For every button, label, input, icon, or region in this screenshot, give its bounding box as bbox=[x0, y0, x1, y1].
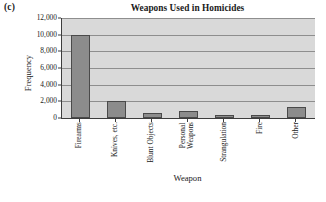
x-category-label: Strangulation bbox=[220, 122, 228, 162]
bar-series bbox=[62, 18, 315, 118]
x-category-label: Fire bbox=[256, 122, 264, 134]
x-category-slot: Fire bbox=[242, 122, 278, 172]
bar-slot bbox=[134, 18, 170, 118]
x-category-slot: Other bbox=[278, 122, 314, 172]
y-tick-label: 2,000 bbox=[40, 98, 57, 105]
x-category-slot: Firearms bbox=[61, 122, 97, 172]
plot-area bbox=[61, 18, 315, 119]
x-category-label: Firearms bbox=[75, 122, 83, 148]
bar-slot bbox=[207, 18, 243, 118]
bar-slot bbox=[279, 18, 315, 118]
y-tick-label: 4,000 bbox=[40, 81, 57, 88]
bar[interactable] bbox=[179, 111, 198, 119]
bar[interactable] bbox=[143, 113, 162, 118]
x-category-slot: Blunt Objects bbox=[133, 122, 169, 172]
y-tick-label: 6,000 bbox=[40, 64, 57, 71]
x-axis-category-labels: FirearmsKnives, etc.Blunt ObjectsPersona… bbox=[61, 122, 314, 172]
chart-title: Weapons Used in Homicides bbox=[60, 3, 315, 13]
bar-slot bbox=[62, 18, 98, 118]
bar[interactable] bbox=[107, 101, 126, 118]
y-tick-label: 0 bbox=[53, 114, 57, 121]
x-category-label: Blunt Objects bbox=[147, 122, 155, 163]
x-category-label: Knives, etc. bbox=[111, 122, 119, 157]
x-category-slot: Knives, etc. bbox=[97, 122, 133, 172]
bar[interactable] bbox=[71, 35, 90, 118]
bar[interactable] bbox=[251, 115, 270, 118]
y-tick-label: 10,000 bbox=[37, 31, 57, 38]
figure: (c) Weapons Used in Homicides Frequency … bbox=[0, 0, 326, 202]
x-axis-title: Weapon bbox=[61, 174, 314, 183]
panel-label: (c) bbox=[4, 3, 15, 13]
x-category-label: Personal Weapons bbox=[180, 122, 196, 149]
y-axis-title: Frequency bbox=[24, 55, 33, 91]
x-category-slot: Strangulation bbox=[206, 122, 242, 172]
x-category-label: Other bbox=[292, 122, 300, 139]
bar[interactable] bbox=[287, 107, 306, 118]
y-axis-tick-labels: 02,0004,0006,0008,00010,00012,000 bbox=[32, 18, 61, 118]
x-category-slot: Personal Weapons bbox=[169, 122, 205, 172]
bar-slot bbox=[243, 18, 279, 118]
bar-slot bbox=[170, 18, 206, 118]
y-tick-label: 12,000 bbox=[37, 14, 57, 21]
bar[interactable] bbox=[215, 115, 234, 118]
y-tick-label: 8,000 bbox=[40, 48, 57, 55]
bar-slot bbox=[98, 18, 134, 118]
